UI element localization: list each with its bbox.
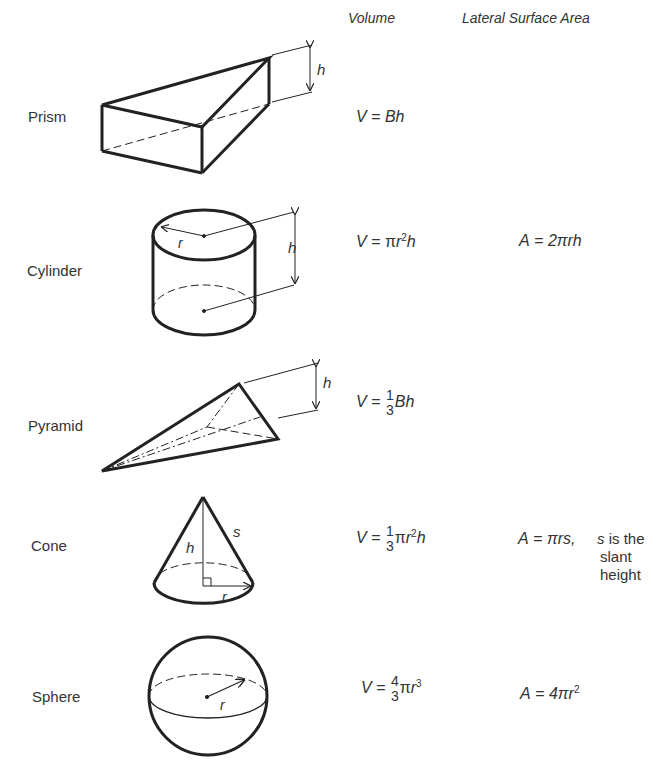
- formula-rhs: 2πrh: [548, 232, 582, 249]
- note-line-3: height: [597, 566, 645, 584]
- pyramid-shape: [102, 363, 318, 471]
- formula-eq: =: [376, 679, 385, 696]
- cone-volume-formula: V = 13πr2h: [356, 524, 426, 554]
- formula-rhs: πrs,: [547, 530, 576, 547]
- formula-eq: =: [535, 685, 544, 702]
- formula-exp: 2: [574, 684, 580, 695]
- formula-pi: π: [395, 529, 406, 546]
- formula-lhs: V: [356, 108, 367, 125]
- prism-shape: [102, 45, 312, 173]
- note-line-2: slant: [597, 548, 645, 566]
- fraction-denominator: 3: [386, 403, 394, 418]
- cylinder-volume-formula: V = πr2h: [356, 232, 416, 251]
- cone-shape: [154, 497, 253, 603]
- formula-rhs: Bh: [385, 108, 405, 125]
- note-text: is the: [605, 530, 645, 547]
- fraction-numerator: 1: [386, 388, 394, 403]
- cone-r-label: r: [222, 589, 228, 605]
- fraction-numerator: 1: [386, 524, 394, 539]
- cone-s-label: s: [233, 523, 241, 540]
- cone-slant-height-note: s is the slant height: [597, 530, 645, 584]
- cylinder-shape: [153, 210, 295, 335]
- formula-lhs: A: [518, 530, 529, 547]
- formula-eq: =: [371, 393, 380, 410]
- sphere-shape: [149, 637, 267, 755]
- sphere-area-formula: A = 4πr2: [520, 684, 579, 703]
- formula-lhs: A: [519, 232, 530, 249]
- cylinder-h-label: h: [288, 239, 296, 256]
- pyramid-volume-formula: V = 13Bh: [356, 388, 414, 418]
- cylinder-area-formula: A = 2πrh: [519, 232, 582, 250]
- formula-lhs: V: [361, 679, 372, 696]
- formula-tail: h: [407, 233, 416, 250]
- solids-illustration: h r h h h s r: [0, 0, 668, 760]
- formula-exp: 3: [416, 678, 422, 689]
- formula-eq: =: [533, 530, 542, 547]
- formula-fraction: 43: [391, 674, 399, 704]
- cone-h-label: h: [186, 539, 194, 556]
- formula-pi: π: [400, 679, 411, 696]
- cylinder-r-label: r: [178, 235, 184, 251]
- formula-eq: =: [371, 108, 380, 125]
- formula-eq: =: [371, 233, 380, 250]
- formula-lhs: A: [520, 685, 531, 702]
- fraction-denominator: 3: [386, 539, 394, 554]
- formula-eq: =: [371, 529, 380, 546]
- note-var: s: [597, 530, 605, 547]
- note-line-1: s is the: [597, 530, 645, 548]
- formula-lhs: V: [356, 233, 367, 250]
- fraction-denominator: 3: [391, 689, 399, 704]
- fraction-numerator: 4: [391, 674, 399, 689]
- pyramid-h-label: h: [323, 374, 331, 391]
- prism-h-label: h: [317, 61, 325, 78]
- formula-fraction: 13: [386, 524, 394, 554]
- formula-tail: Bh: [395, 393, 415, 410]
- formula-eq: =: [534, 232, 543, 249]
- formula-pi: π: [385, 233, 396, 250]
- sphere-r-label: r: [220, 697, 226, 713]
- prism-volume-formula: V = Bh: [356, 108, 405, 126]
- formula-lhs: V: [356, 393, 367, 410]
- formula-rhs: 4πr: [549, 685, 574, 702]
- formula-fraction: 13: [386, 388, 394, 418]
- formula-lhs: V: [356, 529, 367, 546]
- cone-area-formula: A = πrs,: [518, 530, 575, 548]
- sphere-volume-formula: V = 43πr3: [361, 674, 422, 704]
- formula-tail: h: [417, 529, 426, 546]
